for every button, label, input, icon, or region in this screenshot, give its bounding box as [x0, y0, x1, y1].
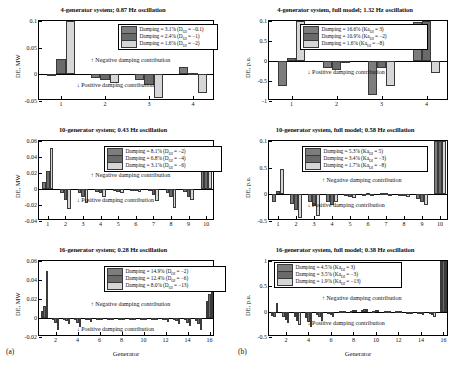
- bar: [173, 189, 177, 208]
- panel-bot-right-ytick-label: 1: [264, 258, 267, 264]
- panel-bot-left-ytick-label: 0: [34, 315, 37, 321]
- legend-label-tail: = −3): [345, 271, 358, 277]
- panel-bot-left-xtick-label: 2: [54, 337, 57, 343]
- bar: [341, 61, 350, 63]
- panel-mid-right-ytick-label: 0.1: [260, 138, 268, 144]
- panel-mid-right-ytick-label: 0: [264, 191, 267, 197]
- panel-bot-left-ytick-label: 0.02: [27, 296, 38, 302]
- panel-bot-left-ytick-label: -0.02: [25, 334, 38, 340]
- bar: [287, 312, 289, 323]
- panel-bot-left-xtick-mark: [56, 332, 57, 335]
- panel-mid-left-xtick-mark: [171, 216, 172, 219]
- panel-bot-right-xtick-label: 6: [329, 337, 332, 343]
- panel-mid-left-xtick-mark: [118, 216, 119, 219]
- legend-label-main: Damping = 3.1% (D: [140, 26, 183, 32]
- panel-top-left-xtick-label: 4: [192, 101, 195, 107]
- panel-bot-right-ytick-mark: [269, 337, 272, 338]
- legend-label-main: Damping = 1.7% (Ka: [324, 162, 370, 168]
- bar: [422, 312, 424, 316]
- panel-mid-right-xtick-label: 9: [421, 221, 424, 227]
- panel-mid-left-xtick-label: 7: [152, 221, 155, 227]
- legend-swatch: [305, 162, 321, 169]
- panel-bot-right-xtick-label: 2: [284, 337, 287, 343]
- panel-top-right-xtick-label: 3: [380, 101, 383, 107]
- bar: [424, 194, 428, 204]
- legend-label-main: Damping = 5.3% (Ka: [324, 148, 370, 154]
- legend-label-tail: = −8): [371, 40, 384, 46]
- bar: [123, 318, 125, 320]
- panel-bot-right-xtick-label: 14: [418, 337, 424, 343]
- panel-mid-left-ytick-label: 0.06: [27, 138, 38, 144]
- legend-label: Damping = 3.1% (DOI = −6): [126, 162, 186, 170]
- panel-mid-right-xtick-mark: [332, 216, 333, 219]
- panel-bot-right-xtick-label: 12: [395, 337, 401, 343]
- legend-label-main: Damping = 8.0% (D: [126, 282, 169, 288]
- panel-mid-left-legend: Damping = 8.1% (DOI = −2)Damping = 6.8% …: [104, 146, 222, 172]
- panel-top-right-xtick-label: 4: [425, 101, 428, 107]
- bar: [155, 189, 159, 201]
- panel-top-right-ytick-label: -1: [262, 98, 267, 104]
- panel-bot-left-ylabel: DE, MW: [14, 293, 21, 316]
- bar: [156, 318, 158, 320]
- legend-label-tail: = −13): [345, 278, 361, 284]
- panel-mid-left-ytick-label: 0.02: [27, 170, 38, 176]
- bar: [406, 194, 410, 196]
- panel-mid-right-xtick-label: 6: [367, 221, 370, 227]
- panel-bot-right-annotation-positive: ↓ Positive damping contribution: [308, 320, 385, 326]
- panel-mid-right-xtick-mark: [278, 216, 279, 219]
- bar: [442, 141, 446, 194]
- panel-mid-right-ytick-mark: [269, 221, 272, 222]
- panel-mid-right-xtick-label: 7: [385, 221, 388, 227]
- panel-mid-right-xtick-mark: [422, 216, 423, 219]
- bar: [388, 311, 390, 313]
- panel-top-left-xtick-label: 2: [104, 101, 107, 107]
- panel-bot-left-xtick-mark: [144, 332, 145, 335]
- panel-mid-left-xtick-label: 6: [134, 221, 137, 227]
- panel-bot-left-xtick-mark: [188, 332, 189, 335]
- panel-top-left-xtick-mark: [105, 96, 106, 99]
- panel-mid-left-xtick-mark: [189, 216, 190, 219]
- legend-label: Damping = 1.7% (KaOI = −8): [324, 162, 386, 170]
- panel-bot-right-xtick-label: 4: [307, 337, 310, 343]
- panel-bot-left-ytick-mark: [39, 337, 42, 338]
- panel-top-left-ytick-mark: [39, 101, 42, 102]
- panel-bot-right-annotation-negative: ↑ Negative damping contribution: [322, 295, 401, 301]
- panel-bot-left-xtick-label: 16: [207, 337, 213, 343]
- panel-top-left-ylabel: DE, MW: [14, 55, 21, 78]
- panel-bot-left-xtick-label: 14: [185, 337, 191, 343]
- panel-mid-right-xtick-label: 5: [349, 221, 352, 227]
- panel-bot-right-xtick-mark: [331, 332, 332, 335]
- legend-label-main: Damping = 3.1% (D: [126, 162, 169, 168]
- legend-label-main: Damping = 3.4% (Ka: [324, 155, 370, 161]
- panel-bot-left-legend: Damping = 14.9% (DOI = −2)Damping = 12.4…: [104, 266, 226, 292]
- panel-top-left-xtick-mark: [149, 96, 150, 99]
- panel-mid-left-xtick-label: 8: [170, 221, 173, 227]
- panel-bot-left-xtick-mark: [122, 332, 123, 335]
- panel-mid-left-xtick-label: 2: [64, 221, 67, 227]
- panel-bot-right-xtick-mark: [443, 332, 444, 335]
- panel-mid-right: 10-generator system, full model; 0.58 Hz…: [236, 126, 454, 242]
- bar: [145, 318, 147, 320]
- panel-bot-right-xtick-label: 16: [440, 337, 446, 343]
- bar: [198, 74, 207, 93]
- panel-mid-right-annotation-positive: ↓ Positive damping contribution: [308, 202, 385, 208]
- panel-bot-right-ytick-label: -0.5: [258, 334, 268, 340]
- bar: [167, 318, 169, 322]
- bar: [386, 61, 395, 86]
- legend-swatch: [107, 162, 123, 169]
- legend-label-main: Damping = 2.4% (D: [140, 33, 183, 39]
- panel-bot-right-xlabel: Generator: [268, 350, 448, 357]
- bar: [377, 61, 386, 68]
- bar: [388, 194, 392, 196]
- panel-mid-left-xtick-label: 10: [203, 221, 209, 227]
- bar: [276, 303, 278, 312]
- panel-mid-left-xtick-mark: [101, 216, 102, 219]
- bar: [154, 74, 163, 97]
- legend-label-tail: = −6): [173, 162, 186, 168]
- panel-top-right-xtick-mark: [427, 96, 428, 99]
- legend-label-main: Damping = 16.6% (Ka: [322, 26, 370, 32]
- panel-mid-left-xtick-label: 3: [82, 221, 85, 227]
- panel-bot-right-legend: Damping = 4.5% (KaOI = 3)Damping = 3.5% …: [274, 262, 402, 288]
- legend-swatch: [277, 278, 293, 285]
- panel-mid-right-xtick-mark: [440, 216, 441, 219]
